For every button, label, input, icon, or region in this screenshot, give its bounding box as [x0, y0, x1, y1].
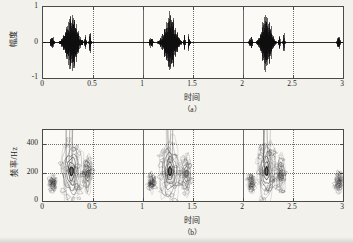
waveform-xtick-0: 0: [40, 80, 44, 88]
spectrogram-ytick-400: 400: [14, 139, 38, 147]
spectrogram-ytick-0: 0: [14, 196, 38, 204]
waveform-xtick-15: 1.5: [187, 80, 196, 88]
spectrogram-ytick-200: 200: [14, 168, 38, 176]
spectrogram-x-axis-title: 时间: [184, 214, 201, 225]
panel-spectrogram: 频率/Hz 400 200 0 0 0.5 1 1.5 2 2.5 3 时间 （…: [0, 115, 353, 243]
panel-waveform: 幅度 1 0 -1 0 0.5 1 1.5 2 2.5 3 时间 （a）: [0, 0, 353, 115]
spectrogram-xtick-1: 1: [140, 203, 144, 211]
waveform-trace: [43, 7, 343, 78]
spectrogram-xtick-2: 2: [240, 203, 244, 211]
waveform-subfigure-caption: （a）: [183, 103, 200, 114]
spectrogram-xtick-05: 0.5: [87, 203, 96, 211]
waveform-ytick-0: 0: [22, 38, 38, 46]
figure-root: 幅度 1 0 -1 0 0.5 1 1.5 2 2.5 3 时间 （a）: [0, 0, 353, 243]
waveform-ytick-neg1: -1: [20, 73, 38, 81]
waveform-x-axis-title: 时间: [184, 91, 201, 102]
spectrogram-xtick-15: 1.5: [187, 203, 196, 211]
spectrogram-xtick-25: 2.5: [287, 203, 296, 211]
waveform-xtick-3: 3: [340, 80, 344, 88]
spectrogram-contours: [43, 130, 343, 201]
spectrogram-subfigure-caption: （b）: [183, 226, 201, 237]
spectrogram-xtick-3: 3: [340, 203, 344, 211]
waveform-xtick-2: 2: [240, 80, 244, 88]
waveform-xtick-1: 1: [140, 80, 144, 88]
waveform-y-axis-title: 幅度: [7, 19, 18, 59]
waveform-ytick-1: 1: [22, 2, 38, 10]
spectrogram-xtick-0: 0: [40, 203, 44, 211]
waveform-xtick-05: 0.5: [87, 80, 96, 88]
spectrogram-plot-area: [42, 129, 344, 202]
waveform-xtick-25: 2.5: [287, 80, 296, 88]
waveform-plot-area: [42, 6, 344, 79]
